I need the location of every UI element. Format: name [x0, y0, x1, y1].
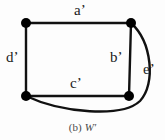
bottom-left-vertex [21, 91, 31, 101]
top-left-vertex [21, 18, 31, 28]
edge-label-b-prime: b’ [110, 50, 123, 65]
graph-canvas [0, 0, 165, 140]
figure-graph-w-prime: a’ d’ b’ c’ e’ (b)W′ [0, 0, 165, 140]
edge-label-c-prime: c’ [70, 76, 82, 91]
edge-label-e-prime: e’ [143, 62, 155, 77]
edge-label-a-prime: a’ [74, 3, 86, 18]
bottom-right-vertex [124, 91, 134, 101]
caption-prefix: (b) [69, 121, 82, 133]
edge-b-prime [129, 23, 131, 96]
figure-caption: (b)W′ [0, 121, 165, 133]
top-right-vertex [126, 18, 136, 28]
caption-graph-name: W′ [82, 121, 97, 133]
edge-label-d-prime: d’ [6, 50, 19, 65]
